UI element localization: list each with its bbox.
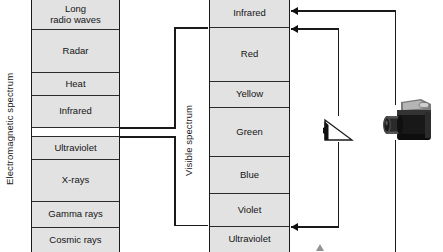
vis-band-label: Yellow	[236, 89, 263, 100]
vis-band-label: Red	[241, 49, 258, 60]
em-band-radar[interactable]: Radar	[32, 30, 119, 73]
vis-band-green[interactable]: Green	[210, 108, 289, 157]
vis-band-ultraviolet[interactable]: Ultraviolet	[210, 227, 289, 252]
em-band-x-rays[interactable]: X-rays	[32, 160, 119, 202]
em-band-label: Longradio waves	[50, 4, 101, 25]
em-band-visible-slice[interactable]	[32, 128, 119, 137]
arrow-prism-to-red-vertical	[338, 28, 340, 116]
vis-band-yellow[interactable]: Yellow	[210, 82, 289, 108]
visible-spectrum-axis-label: Visible spectrum	[183, 60, 194, 220]
vis-band-label: Violet	[238, 205, 262, 216]
arrow-prism-to-red-horizontal	[291, 28, 339, 30]
bracket-upper-horizontal	[120, 127, 176, 129]
bracket-upper-vertical	[174, 27, 176, 128]
vis-band-label: Ultraviolet	[228, 234, 270, 245]
em-band-label: Ultraviolet	[54, 143, 96, 154]
vis-band-label: Green	[236, 127, 262, 138]
electromagnetic-spectrum-column: Longradio waves Radar Heat Infrared Ultr…	[31, 0, 120, 252]
arrowhead-left-top	[291, 7, 298, 15]
vis-band-label: Blue	[240, 170, 259, 181]
arrow-camera-to-top-vertical	[395, 10, 397, 105]
em-band-infrared[interactable]: Infrared	[32, 96, 119, 128]
prism-icon[interactable]	[322, 116, 356, 144]
em-band-heat[interactable]: Heat	[32, 73, 119, 96]
em-band-label: Radar	[63, 46, 89, 57]
em-band-gamma-rays[interactable]: Gamma rays	[32, 202, 119, 228]
arrowhead-left-violet	[291, 223, 298, 231]
em-band-label: Cosmic rays	[49, 235, 101, 246]
diagram-canvas: Electromagnetic spectrum Longradio waves…	[0, 0, 443, 252]
clipped-edge-text	[432, 8, 443, 68]
bracket-lower-vertical	[174, 136, 176, 226]
arrowhead-up-bottom	[316, 244, 324, 251]
arrow-camera-return-vertical	[395, 140, 397, 252]
camera-icon[interactable]	[381, 98, 433, 145]
arrowhead-left-red	[291, 25, 298, 33]
em-band-label: Heat	[65, 79, 85, 90]
vis-band-blue[interactable]: Blue	[210, 157, 289, 194]
bracket-upper-top	[174, 27, 208, 29]
arrow-prism-to-violet-horizontal	[291, 226, 339, 228]
em-band-label: Gamma rays	[48, 209, 102, 220]
vis-band-label: Infrared	[233, 8, 266, 19]
em-band-label: Infrared	[59, 106, 92, 117]
vis-band-red[interactable]: Red	[210, 28, 289, 82]
vis-band-violet[interactable]: Violet	[210, 194, 289, 227]
arrow-camera-to-top-horizontal	[291, 10, 396, 12]
arrow-prism-to-violet-vertical	[338, 142, 340, 227]
em-band-label: X-rays	[62, 175, 89, 186]
electromagnetic-spectrum-axis-label: Electromagnetic spectrum	[4, 24, 15, 234]
visible-spectrum-column: Infrared Red Yellow Green Blue Violet Ul…	[209, 0, 290, 252]
em-band-cosmic-rays[interactable]: Cosmic rays	[32, 228, 119, 252]
em-band-ultraviolet[interactable]: Ultraviolet	[32, 137, 119, 160]
vis-band-infrared[interactable]: Infrared	[210, 0, 289, 28]
bracket-lower-bottom	[174, 225, 208, 227]
em-band-long-radio-waves[interactable]: Longradio waves	[32, 0, 119, 30]
bracket-lower-horizontal	[120, 136, 176, 138]
